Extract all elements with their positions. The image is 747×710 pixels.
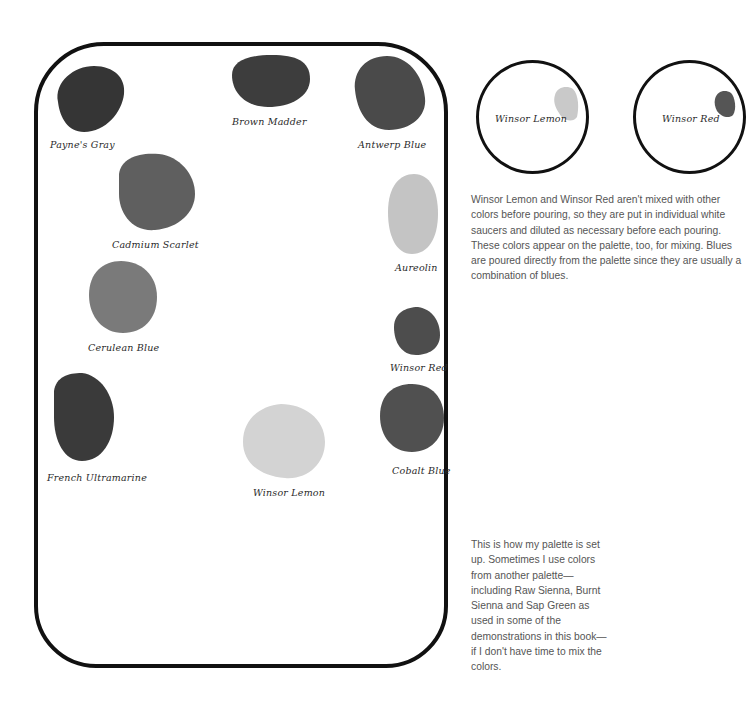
paint-blob-icon bbox=[243, 404, 325, 478]
well-label: Brown Madder bbox=[232, 116, 307, 127]
paint-blob-icon bbox=[54, 373, 114, 461]
well-label: Cadmium Scarlet bbox=[112, 239, 199, 250]
saucer-label: Winsor Red bbox=[662, 113, 720, 124]
paint-well-winsor-red bbox=[392, 305, 442, 357]
paint-well-french-ultramarine bbox=[52, 371, 118, 463]
paint-blob-icon bbox=[57, 66, 124, 132]
paint-well-cerulean-blue bbox=[87, 259, 159, 335]
paint-blob-icon bbox=[388, 174, 438, 254]
well-label: Antwerp Blue bbox=[358, 139, 426, 150]
saucer-caption: Winsor Lemon and Winsor Red aren't mixed… bbox=[471, 192, 747, 284]
saucer-winsor-lemon: Winsor Lemon bbox=[476, 60, 589, 174]
well-label: French Ultramarine bbox=[47, 472, 147, 483]
paint-blob-icon bbox=[380, 384, 444, 452]
palette-caption: This is how my palette is set up. Someti… bbox=[471, 537, 611, 675]
paint-blob-icon bbox=[232, 55, 310, 107]
paint-blob-icon bbox=[394, 307, 440, 355]
well-label: Cerulean Blue bbox=[88, 342, 159, 353]
paint-well-cadmium-scarlet bbox=[115, 150, 199, 234]
paint-blob-icon bbox=[89, 261, 157, 333]
paint-well-cobalt-blue bbox=[378, 382, 446, 454]
saucer-winsor-red: Winsor Red bbox=[633, 60, 746, 174]
well-label: Winsor Lemon bbox=[253, 487, 325, 498]
paint-well-winsor-lemon bbox=[241, 402, 327, 480]
paint-well-antwerp-blue bbox=[351, 54, 427, 132]
paint-blob-icon bbox=[355, 56, 425, 130]
well-label: Winsor Red bbox=[390, 362, 448, 373]
saucer-label: Winsor Lemon bbox=[495, 113, 567, 124]
paint-blob-icon bbox=[119, 154, 195, 231]
paint-well-aureolin bbox=[384, 172, 440, 256]
well-label: Payne's Gray bbox=[50, 139, 115, 150]
paint-well-brown-madder bbox=[228, 53, 312, 109]
paint-well-paynes-gray bbox=[50, 62, 128, 136]
well-label: Aureolin bbox=[395, 262, 438, 273]
well-label: Cobalt Blue bbox=[392, 465, 451, 476]
